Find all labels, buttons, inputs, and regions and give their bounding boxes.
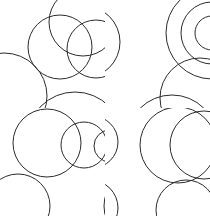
- figure-canvas: [0, 0, 210, 216]
- bottom-left-circle-small: [94, 130, 126, 162]
- top-left-circle-top: [49, 0, 117, 56]
- bottom-left-arc-edge-bottom-right: [104, 170, 176, 216]
- top-left-arc-edge-bottom: [27, 92, 123, 188]
- bottom-left-arc-edge-top: [16, 24, 96, 104]
- bottom-right-circle-base: [140, 107, 210, 183]
- top-left-circle-right: [67, 20, 125, 78]
- top-right-arc-edge-left: [48, 6, 120, 78]
- bottom-left-arc-edge-bottom-left: [0, 174, 50, 216]
- bottom-right-arc-edge-bottom-right: [156, 180, 210, 216]
- circle-figure: [0, 0, 210, 216]
- top-left-arc-edge-left: [0, 53, 47, 139]
- bottom-right-arc-edge-bottom-left: [62, 180, 118, 216]
- bottom-right-circle-cutter: [170, 111, 210, 179]
- top-right-circle-inner: [195, 16, 210, 50]
- bottom-left-circle-large: [13, 109, 81, 177]
- top-left-arc-edge-right: [108, 44, 210, 148]
- top-right-circle-outer: [166, 0, 210, 79]
- panel-top-left: [0, 0, 210, 188]
- bottom-left-circle-medium: [61, 122, 107, 168]
- panel-groups: [0, 0, 210, 216]
